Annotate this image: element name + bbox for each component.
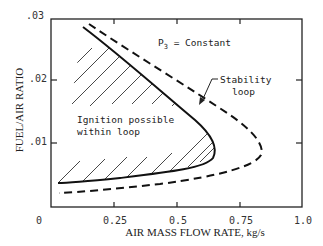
p3-constant-annotation: P3 = Constant xyxy=(158,37,231,53)
stability-loop-label: Stability loop xyxy=(220,74,271,98)
x-axis-title: AIR MASS FLOW RATE, kg/s xyxy=(70,226,320,238)
y-axis-title: FUEL/AIR RATIO xyxy=(13,45,25,175)
y-tick-01: .01 xyxy=(29,136,47,147)
x-tick-0: 0 xyxy=(36,215,42,226)
x-tick-05: 0.5 xyxy=(169,215,187,226)
y-tick-03: .03 xyxy=(26,10,44,21)
y-tick-02: .02 xyxy=(29,73,47,84)
x-tick-075: 0.75 xyxy=(229,215,253,226)
chart: 0 0.25 0.5 0.75 1.0 .03 .02 .01 AIR MASS… xyxy=(0,0,323,246)
x-tick-1: 1.0 xyxy=(294,215,312,226)
ignition-label: Ignition possible within loop xyxy=(77,114,174,138)
x-tick-025: 0.25 xyxy=(103,215,127,226)
